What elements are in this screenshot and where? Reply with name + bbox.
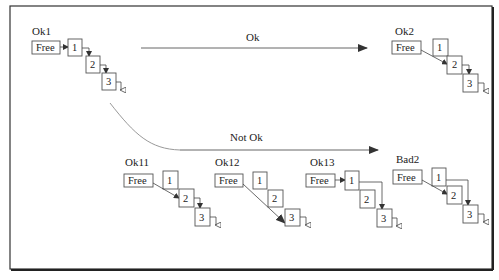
state-label: Ok2 — [395, 25, 414, 37]
free-label: Free — [219, 175, 238, 186]
state-label: Ok13 — [310, 156, 335, 168]
state-label: Ok12 — [215, 156, 239, 168]
nil-pointer-icon — [478, 83, 484, 91]
svg-text:2: 2 — [183, 193, 188, 204]
state-ok12: Ok12 Free 1 2 3 — [215, 156, 306, 226]
svg-text:2: 2 — [451, 190, 456, 201]
svg-text:1: 1 — [257, 175, 262, 186]
state-ok13: Ok13 Free 1 2 3 — [306, 156, 397, 227]
state-label: Ok1 — [32, 25, 51, 37]
svg-text:2: 2 — [452, 59, 457, 70]
svg-text:3: 3 — [289, 212, 294, 223]
free-label: Free — [36, 42, 55, 53]
svg-text:2: 2 — [90, 59, 95, 70]
svg-text:3: 3 — [199, 212, 204, 223]
not-ok-transition-label: Not Ok — [230, 131, 263, 143]
svg-text:3: 3 — [381, 213, 386, 224]
nil-pointer-icon — [392, 218, 397, 226]
nil-pointer-icon — [116, 82, 121, 90]
ok-transition-arrow: Ok — [141, 31, 367, 48]
nil-pointer-icon — [300, 217, 306, 225]
svg-text:1: 1 — [437, 42, 442, 53]
svg-text:1: 1 — [436, 172, 441, 183]
state-ok2: Ok2 Free 1 2 3 — [392, 25, 484, 92]
free-label: Free — [397, 172, 416, 183]
free-label: Free — [310, 175, 329, 186]
state-ok11: Ok11 Free 1 2 3 — [124, 156, 216, 226]
svg-text:3: 3 — [106, 76, 111, 87]
state-bad2: Bad2 Free 1 2 3 — [393, 153, 484, 223]
svg-text:1: 1 — [349, 175, 354, 186]
nil-pointer-icon — [478, 214, 484, 222]
free-label: Free — [128, 175, 147, 186]
svg-text:3: 3 — [467, 209, 472, 220]
not-ok-transition-arrow: Not Ok — [110, 103, 378, 150]
svg-text:3: 3 — [467, 78, 472, 89]
state-label: Ok11 — [125, 156, 149, 168]
nil-pointer-icon — [210, 217, 216, 225]
linked-list-state-diagram: Ok Not Ok Ok1 Free 1 2 3 Ok2 Free 1 2 3 — [0, 0, 499, 280]
state-ok1: Ok1 Free 1 2 3 — [32, 25, 121, 90]
svg-text:1: 1 — [72, 42, 77, 53]
svg-text:2: 2 — [364, 194, 369, 205]
svg-text:1: 1 — [167, 175, 172, 186]
state-label: Bad2 — [396, 153, 419, 165]
free-label: Free — [396, 42, 415, 53]
svg-text:2: 2 — [272, 193, 277, 204]
ok-transition-label: Ok — [246, 31, 260, 43]
